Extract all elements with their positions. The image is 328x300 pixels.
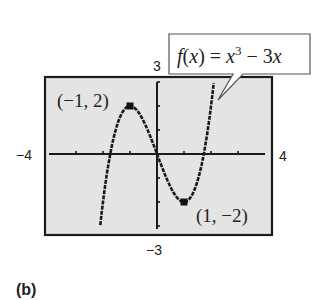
- ymax-label: 3: [153, 58, 161, 74]
- local-max-label: (−1, 2): [57, 90, 109, 112]
- panel-label: (b): [16, 281, 36, 298]
- ymin-label: −3: [146, 242, 162, 258]
- graph-figure: −4 4 3 −3 (−1, 2) (1, −2) f(x) = x3 − 3x…: [0, 0, 328, 300]
- local-min-label: (1, −2): [196, 205, 248, 227]
- xmax-label: 4: [279, 148, 287, 164]
- function-label: f(x) = x3 − 3x: [177, 43, 282, 68]
- local-min-marker: [181, 199, 188, 206]
- xmin-label: −4: [16, 147, 32, 163]
- local-max-marker: [127, 103, 134, 110]
